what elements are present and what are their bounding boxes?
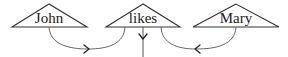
- diagram-graphics: [0, 0, 288, 57]
- node-label-john: John: [19, 11, 79, 26]
- diagram-canvas: John likes Mary: [0, 0, 288, 57]
- node-label-likes: likes: [113, 11, 173, 26]
- node-label-mary: Mary: [206, 11, 266, 26]
- edge-john-to-likes: [49, 27, 125, 49]
